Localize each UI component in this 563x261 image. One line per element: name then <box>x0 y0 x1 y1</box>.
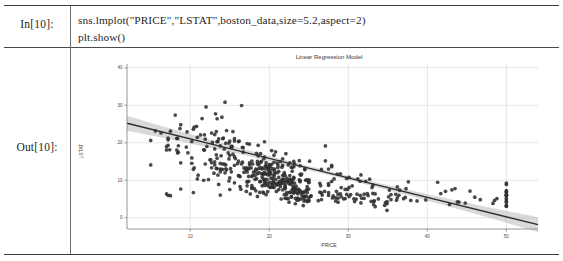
figure-background <box>71 48 559 254</box>
y-tick-label: 20 <box>117 140 123 145</box>
output-prompt-label: Out[10]: <box>8 141 66 153</box>
x-axis-label: PRICE <box>321 242 337 248</box>
x-tick-label: 30 <box>346 234 352 239</box>
x-tick-label: 40 <box>425 234 431 239</box>
chart-title: Linear Regression Model <box>296 54 363 60</box>
output-figure: 0102030401020304050 Linear Regression Mo… <box>71 48 559 254</box>
cell-top-rule <box>4 5 559 6</box>
input-prompt-label: In[10]: <box>8 18 66 30</box>
notebook-cell: In[10]: Out[10]: sns.lmplot("PRICE","LST… <box>0 0 563 261</box>
x-tick-label: 20 <box>267 234 273 239</box>
cell-bottom-rule <box>4 254 559 255</box>
y-tick-label: 30 <box>117 103 123 108</box>
code-line: sns.lmplot("PRICE","LSTAT",boston_data,s… <box>78 12 556 29</box>
linear-regression-scatter-chart: 0102030401020304050 Linear Regression Mo… <box>71 48 559 254</box>
y-axis-label: LSTAT <box>78 144 84 159</box>
x-tick-label: 10 <box>188 234 194 239</box>
x-tick-label: 50 <box>504 234 510 239</box>
y-tick-label: 0 <box>120 215 123 220</box>
code-line: plt.show() <box>78 29 556 46</box>
y-tick-label: 10 <box>117 178 123 183</box>
y-tick-label: 40 <box>117 65 123 70</box>
code-input-area[interactable]: sns.lmplot("PRICE","LSTAT",boston_data,s… <box>78 12 556 46</box>
